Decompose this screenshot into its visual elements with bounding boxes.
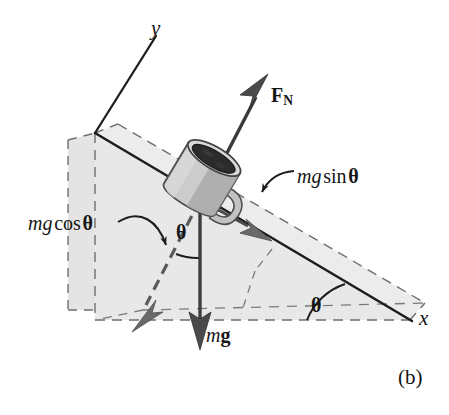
y-axis-label: y: [151, 18, 160, 39]
theta-label-at-base: θ: [311, 295, 321, 315]
physics-figure-inclined-plane-free-body-diagram: y x FN mg sin θ mg cos θ mg θ θ (b): [0, 0, 449, 415]
figure-drawing-canvas: [0, 0, 449, 415]
y-axis-line: [95, 36, 156, 133]
figure-caption: (b): [398, 367, 423, 388]
mg-cos-theta-symbol: θ: [82, 212, 92, 234]
mg-cos-theta-mg: mg: [28, 212, 52, 234]
mg-sin-theta-label: mg sin θ: [297, 166, 359, 186]
weight-label-mass: m: [206, 324, 220, 346]
mg-sin-theta-symbol: θ: [348, 165, 358, 187]
normal-force-label: FN: [271, 85, 293, 108]
mg-sin-theta-function: sin: [323, 165, 346, 187]
weight-label-gravity: g: [220, 324, 230, 346]
mg-cos-theta-function: cos: [54, 212, 81, 234]
leader-mg-sin-theta: [262, 171, 294, 192]
normal-force-label-symbol: F: [271, 84, 283, 106]
mg-sin-theta-mg: mg: [297, 165, 321, 187]
theta-label-at-mug: θ: [176, 222, 186, 242]
x-axis-label: x: [419, 308, 428, 329]
weight-label: mg: [206, 325, 230, 345]
normal-force-label-subscript: N: [283, 93, 293, 108]
mg-cos-theta-label: mg cos θ: [28, 213, 93, 233]
